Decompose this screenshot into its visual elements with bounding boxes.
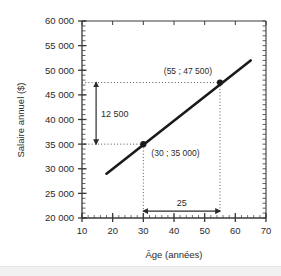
data-point-marker: [217, 79, 223, 85]
y-tick-label: 60 000: [45, 15, 74, 26]
y-tick-label: 40 000: [45, 114, 74, 125]
y-axis-tick-labels: 20 00025 00030 00035 00040 00045 00050 0…: [45, 15, 74, 223]
y-tick-label: 45 000: [45, 89, 74, 100]
x-tick-label: 50: [199, 225, 210, 236]
y-tick-label: 35 000: [45, 139, 74, 150]
x-tick-label: 70: [261, 225, 272, 236]
y-tick-label: 55 000: [45, 40, 74, 51]
salary-vs-age-line-chart: 20 00025 00030 00035 00040 00045 00050 0…: [0, 0, 281, 276]
data-point-marker: [140, 141, 146, 147]
scan-artifact-band: [0, 266, 281, 276]
data-point-label: (55 ; 47 500): [164, 66, 212, 76]
y-tick-label: 30 000: [45, 163, 74, 174]
chart-page: 20 00025 00030 00035 00040 00045 00050 0…: [0, 0, 281, 276]
data-point-label: (30 ; 35 000): [151, 148, 199, 158]
x-tick-label: 10: [77, 225, 88, 236]
x-axis-title: Âge (années): [145, 249, 202, 260]
x-tick-label: 30: [138, 225, 149, 236]
y-axis-title: Salaire annuel ($): [15, 83, 26, 158]
right-frame-ticks: [263, 21, 267, 218]
y-tick-label: 25 000: [45, 188, 74, 199]
x-tick-label: 40: [169, 225, 180, 236]
x-tick-label: 20: [107, 225, 118, 236]
x-tick-label: 60: [230, 225, 241, 236]
rise-annotation-label: 12 500: [101, 109, 129, 119]
run-annotation-label: 25: [177, 198, 187, 208]
y-tick-label: 50 000: [45, 65, 74, 76]
y-tick-label: 20 000: [45, 212, 74, 223]
